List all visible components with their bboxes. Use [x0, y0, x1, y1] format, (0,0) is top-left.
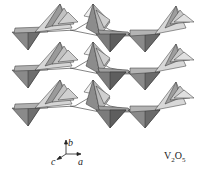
axis-label-a: a	[78, 157, 83, 167]
axis-label-c: c	[51, 157, 55, 167]
formula-element-o: O	[175, 150, 182, 161]
polyhedra-layer-1	[12, 4, 194, 52]
axis-label-b: b	[68, 138, 73, 148]
compound-formula: V2O5	[164, 150, 185, 164]
formula-subscript-5: 5	[182, 156, 186, 164]
polyhedra-layer-2	[12, 42, 194, 90]
v2o5-structure-diagram	[0, 0, 199, 172]
polyhedra-layer-3	[12, 80, 194, 128]
